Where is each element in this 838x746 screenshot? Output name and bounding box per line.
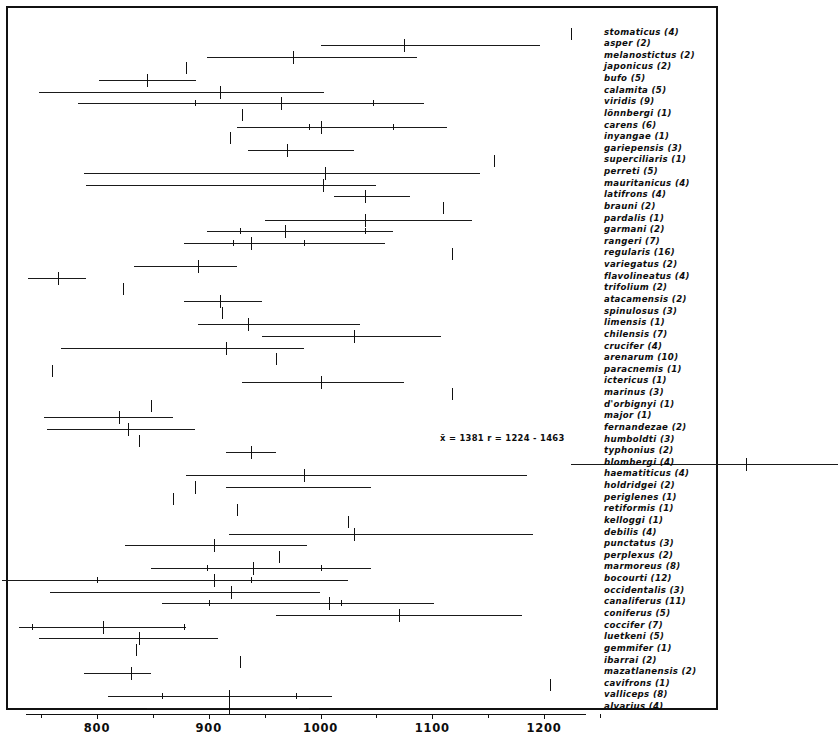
sd-limit-tick <box>207 565 208 571</box>
species-label: bufo (5) <box>604 73 646 83</box>
sd-limit-tick <box>233 240 234 246</box>
species-label: limensis (1) <box>604 317 665 327</box>
axis-minor-tick <box>153 714 154 718</box>
mean-only-tick <box>550 679 551 691</box>
range-line <box>61 348 303 349</box>
species-label: coccifer (7) <box>604 620 663 630</box>
sd-limit-tick <box>341 600 342 606</box>
range-line <box>28 278 86 279</box>
range-line <box>207 57 417 58</box>
sd-limit-tick <box>240 228 241 234</box>
species-label: fernandezae (2) <box>604 422 687 432</box>
range-line <box>262 336 441 337</box>
mean-only-tick <box>452 388 453 400</box>
species-label: coniferus (5) <box>604 608 670 618</box>
species-label: mazatlanensis (2) <box>604 666 696 676</box>
range-line <box>2 580 348 581</box>
range-line <box>86 185 377 186</box>
range-line <box>50 592 320 593</box>
mean-only-tick <box>242 109 243 121</box>
range-line <box>226 487 371 488</box>
species-label: typhonius (2) <box>604 445 674 455</box>
axis-minor-tick <box>376 714 377 718</box>
sd-limit-tick <box>209 600 210 606</box>
species-label: viridis (9) <box>604 96 655 106</box>
mean-only-tick <box>123 283 124 295</box>
species-label: blombergi (4) <box>604 457 675 467</box>
range-line <box>84 673 151 674</box>
species-label: ibarrai (2) <box>604 655 657 665</box>
species-label: ictericus (1) <box>604 375 667 385</box>
range-line <box>47 429 196 430</box>
axis-major-tick <box>544 714 545 719</box>
species-label: luetkeni (5) <box>604 631 664 641</box>
sd-limit-tick <box>321 565 322 571</box>
range-line <box>265 220 473 221</box>
species-label: gemmifer (1) <box>604 643 672 653</box>
range-line <box>125 545 307 546</box>
range-line <box>198 324 360 325</box>
sd-limit-tick <box>32 624 33 630</box>
species-label: trifolium (2) <box>604 282 667 292</box>
species-label: bocourti (12) <box>604 573 672 583</box>
species-label: crucifer (4) <box>604 341 662 351</box>
range-line <box>134 266 237 267</box>
mean-tick <box>746 458 747 471</box>
range-line <box>334 196 410 197</box>
species-label: mauritanicus (4) <box>604 178 690 188</box>
sd-limit-tick <box>296 693 297 699</box>
sd-limit-tick <box>251 577 252 583</box>
mean-only-tick <box>222 307 223 319</box>
species-label: d'orbignyi (1) <box>604 399 675 409</box>
species-label: variegatus (2) <box>604 259 677 269</box>
range-line <box>39 92 324 93</box>
mean-only-tick <box>136 644 137 656</box>
mean-only-tick <box>348 516 349 528</box>
axis-tick-label: 800 <box>84 721 110 735</box>
axis-tick-label: 1100 <box>415 721 450 735</box>
axis-minor-tick <box>265 714 266 718</box>
species-label: perreti (5) <box>604 166 658 176</box>
species-label: periglenes (1) <box>604 492 677 502</box>
species-label: rangeri (7) <box>604 236 660 246</box>
axis-major-tick <box>97 714 98 719</box>
species-label: retiformis (1) <box>604 503 674 513</box>
species-label: melanostictus (2) <box>604 50 695 60</box>
range-line <box>229 534 533 535</box>
range-line <box>321 45 540 46</box>
mean-only-tick <box>443 202 444 214</box>
species-label: haematiticus (4) <box>604 468 689 478</box>
sd-limit-tick <box>195 100 196 106</box>
sd-limit-tick <box>184 624 185 630</box>
axis-major-tick <box>321 714 322 719</box>
range-line <box>151 568 371 569</box>
species-label: carens (6) <box>604 120 657 130</box>
species-label: japonicus (2) <box>604 61 672 71</box>
mean-only-tick <box>52 365 53 377</box>
sd-limit-tick <box>365 228 366 234</box>
sd-limit-tick <box>393 124 394 130</box>
species-label: holdridgei (2) <box>604 480 675 490</box>
species-label: superciliaris (1) <box>604 154 686 164</box>
species-label: brauni (2) <box>604 201 656 211</box>
species-label: kelloggi (1) <box>604 515 663 525</box>
species-label: humboldti (3) <box>604 434 675 444</box>
species-label: cavifrons (1) <box>604 678 670 688</box>
species-label: occidentalis (3) <box>604 585 684 595</box>
range-line <box>39 638 218 639</box>
species-label: canaliferus (11) <box>604 596 686 606</box>
mean-only-tick <box>240 656 241 668</box>
range-line <box>186 475 527 476</box>
range-line <box>162 603 435 604</box>
species-label: debilis (4) <box>604 527 657 537</box>
range-line <box>184 301 262 302</box>
range-line <box>84 173 481 174</box>
sd-limit-tick <box>97 577 98 583</box>
species-label: lönnbergi (1) <box>604 108 672 118</box>
range-line <box>248 150 354 151</box>
mean-only-tick <box>186 62 187 74</box>
mean-only-tick <box>452 248 453 260</box>
species-label: stomaticus (4) <box>604 27 679 37</box>
species-label: valliceps (8) <box>604 689 668 699</box>
species-label: regularis (16) <box>604 247 675 257</box>
